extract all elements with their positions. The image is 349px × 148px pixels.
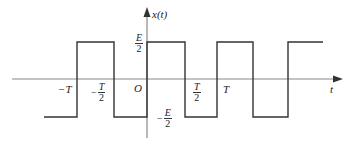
denominator: 2: [165, 119, 170, 129]
denominator: 2: [137, 44, 142, 54]
x-axis-arrow-icon: [144, 7, 151, 17]
tick-label-T-half: T 2: [193, 82, 201, 103]
y-axis-label: x(t): [152, 9, 167, 20]
tick-label-T: T: [223, 84, 229, 95]
level-label-E-half: E 2: [135, 33, 143, 54]
level-label-neg-E-half: − E 2: [157, 108, 172, 129]
denominator: 2: [194, 93, 199, 103]
diagram-graphics: [0, 0, 349, 148]
origin-label: O: [134, 83, 142, 94]
minus-sign: −: [91, 87, 97, 98]
tick-label-neg-T: −T: [58, 84, 72, 95]
square-wave-diagram: x(t) t O −T T − T 2 T 2 E 2 − E 2: [0, 0, 349, 148]
t-axis-arrow-icon: [333, 76, 343, 83]
denominator: 2: [99, 93, 104, 103]
tick-label-neg-T-half: − T 2: [91, 82, 105, 103]
x-axis-label: t: [330, 84, 333, 95]
minus-sign: −: [157, 113, 163, 124]
